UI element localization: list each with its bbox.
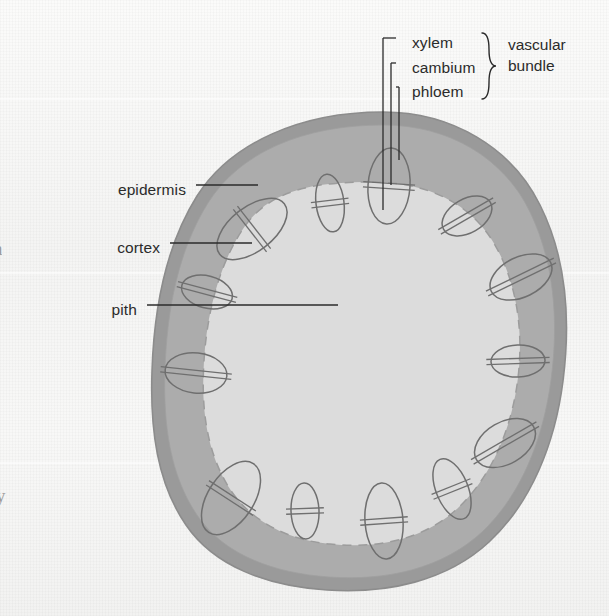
left-edge-text-fragment-upper: a: [0, 238, 2, 260]
vascular-bundle-line-2: bundle: [508, 56, 566, 77]
vascular-bundle-brace: [482, 33, 496, 99]
pith-region: [203, 182, 520, 545]
label-pith: pith: [0, 301, 137, 319]
label-phloem: phloem: [412, 83, 463, 101]
label-cambium: cambium: [412, 59, 476, 77]
label-epidermis: epidermis: [0, 181, 186, 199]
vascular-bundle-line-1: vascular: [508, 35, 566, 56]
label-cortex: cortex: [0, 239, 160, 257]
label-xylem: xylem: [412, 34, 453, 52]
label-vascular-bundle: vascular bundle: [508, 35, 566, 77]
figure-page: epidermis cortex pith xylem cambium phlo…: [0, 0, 609, 616]
left-edge-text-fragment-lower: y: [0, 485, 6, 507]
